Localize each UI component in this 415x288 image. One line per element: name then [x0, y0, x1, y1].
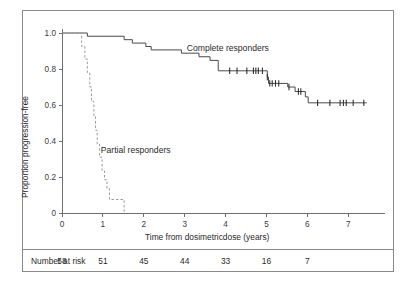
label-complete-responders: Complete responders — [187, 43, 269, 53]
x-tick-label-4: 4 — [223, 220, 228, 229]
y-tick-label-1: 0.2 — [45, 173, 57, 182]
label-partial-responders: Partial responders — [101, 145, 171, 155]
risk-count-6: 7 — [305, 256, 310, 266]
y-tick-label-3: 0.6 — [45, 101, 57, 110]
figure-container: 00.20.40.60.81.001234567Proportion progr… — [0, 0, 415, 288]
x-tick-label-5: 5 — [264, 220, 269, 229]
risk-count-5: 16 — [262, 256, 272, 266]
x-tick-label-3: 3 — [182, 220, 187, 229]
risk-count-0: 58 — [57, 256, 67, 266]
x-axis-title: Time from dosimetricdose (years) — [145, 232, 270, 242]
km-curve-partial-responders — [62, 33, 124, 213]
x-tick-label-1: 1 — [101, 220, 106, 229]
y-tick-label-2: 0.4 — [45, 137, 57, 146]
x-tick-label-2: 2 — [142, 220, 147, 229]
risk-count-3: 44 — [180, 256, 190, 266]
x-tick-label-7: 7 — [346, 220, 351, 229]
risk-count-1: 51 — [98, 256, 108, 266]
risk-count-2: 45 — [139, 256, 149, 266]
y-axis-title: Proportion progression-free — [20, 96, 30, 198]
x-tick-label-0: 0 — [60, 220, 65, 229]
y-tick-label-0: 0 — [51, 209, 56, 218]
y-tick-label-4: 0.8 — [45, 65, 57, 74]
risk-count-4: 33 — [221, 256, 231, 266]
y-tick-label-5: 1.0 — [45, 29, 57, 38]
kaplan-meier-chart: 00.20.40.60.81.001234567Proportion progr… — [0, 0, 415, 288]
x-tick-label-6: 6 — [305, 220, 310, 229]
